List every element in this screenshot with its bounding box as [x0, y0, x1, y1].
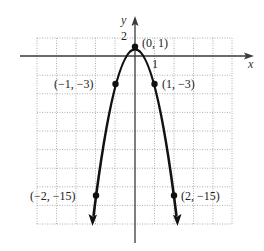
- point-neg2: [93, 192, 99, 198]
- x-axis: [20, 53, 254, 60]
- parabola-graph: x y 2 1 (0, 1) (−1, −3) (1, −3) (−2, −15…: [0, 0, 264, 251]
- point-label-pos2: (2, −15): [181, 189, 220, 203]
- point-neg1: [112, 81, 118, 87]
- y-axis-label: y: [120, 13, 127, 27]
- point-label-neg1: (−1, −3): [54, 77, 94, 91]
- point-pos1: [151, 81, 157, 87]
- point-vertex: [132, 44, 138, 50]
- x-tick-label-1: 1: [152, 57, 158, 71]
- point-label-vertex: (0, 1): [142, 36, 168, 50]
- point-pos2: [171, 192, 177, 198]
- point-label-pos1: (1, −3): [162, 77, 195, 91]
- x-axis-label: x: [247, 57, 254, 71]
- point-label-neg2: (−2, −15): [30, 189, 76, 203]
- y-tick-label-2: 2: [121, 29, 127, 43]
